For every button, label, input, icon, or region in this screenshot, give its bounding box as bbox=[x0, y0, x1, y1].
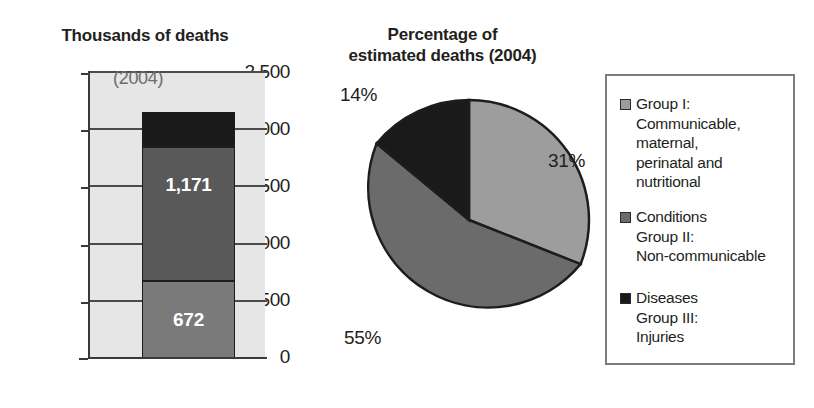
legend-item-group1: Group I: Communicable, maternal, perinat… bbox=[620, 94, 792, 192]
bar-segment-value: 1,171 bbox=[165, 174, 211, 196]
legend-item-label: Diseases Group III: Injuries bbox=[636, 288, 698, 347]
legend-item-label: Group I: Communicable, maternal, perinat… bbox=[636, 94, 740, 192]
pie-title-line-2: estimated deaths (2004) bbox=[348, 46, 536, 65]
pie-label-group3: 14% bbox=[340, 84, 377, 106]
pie-label-group2: 55% bbox=[344, 327, 381, 349]
bar-segment-group3: 301 bbox=[142, 112, 235, 147]
legend-swatch-icon bbox=[620, 293, 631, 304]
legend-swatch-icon bbox=[620, 99, 631, 110]
tick-2000 bbox=[81, 130, 90, 132]
tick-1500 bbox=[81, 187, 90, 189]
bar-plot-area: 301 1,171 672 bbox=[88, 71, 265, 358]
pie-title-line-1: Percentage of bbox=[388, 25, 498, 44]
bar-chart-title: Thousands of deaths bbox=[0, 26, 290, 46]
pie-chart-panel: Percentage of estimated deaths (2004) 31… bbox=[290, 0, 590, 408]
legend-swatch-icon bbox=[620, 212, 631, 223]
bar-chart-year-annotation: (2004) bbox=[113, 68, 163, 89]
tick-2500 bbox=[81, 73, 90, 75]
bar-segment-value: 672 bbox=[173, 309, 204, 331]
tick-500 bbox=[81, 302, 90, 304]
tick-1000 bbox=[81, 245, 90, 247]
bar-axis-baseline bbox=[88, 357, 267, 359]
pie-label-group1: 31% bbox=[548, 150, 585, 172]
figure-root: Thousands of deaths 2,500 2,000 1,500 1,… bbox=[0, 0, 814, 408]
bar-chart-panel: Thousands of deaths 2,500 2,000 1,500 1,… bbox=[0, 0, 290, 408]
legend-item-group2: Conditions Group II: Non-communicable bbox=[620, 207, 792, 266]
bar-segment-group2: 1,171 bbox=[142, 147, 235, 281]
pie-chart-graphic bbox=[347, 96, 591, 344]
tick-0 bbox=[79, 358, 88, 360]
bar-segment-group1: 672 bbox=[142, 281, 235, 358]
legend-item-group3: Diseases Group III: Injuries bbox=[620, 288, 792, 347]
pie-chart-title: Percentage of estimated deaths (2004) bbox=[300, 24, 585, 66]
legend-item-label: Conditions Group II: Non-communicable bbox=[636, 207, 766, 266]
legend-box: Group I: Communicable, maternal, perinat… bbox=[605, 74, 795, 365]
